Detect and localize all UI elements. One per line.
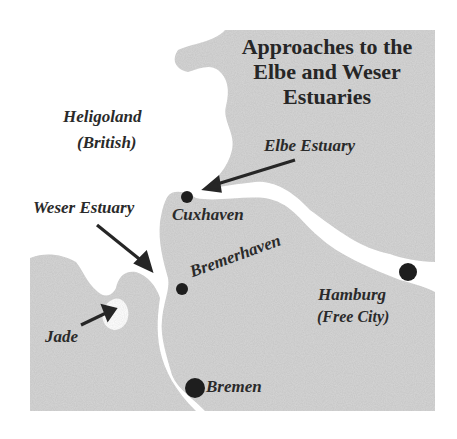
label-hamburg-note: (Free City) [317,308,389,326]
hamburg-dot [399,263,417,281]
label-elbe-estuary: Elbe Estuary [264,136,355,156]
label-hamburg: Hamburg [318,285,386,305]
label-weser-estuary: Weser Estuary [33,198,134,218]
title-line-2: Elbe and Weser [222,59,432,84]
weser-arrowhead [136,253,151,270]
bremen-dot [185,378,205,398]
label-bremen: Bremen [206,377,262,397]
label-cuxhaven: Cuxhaven [172,205,244,225]
elbe-arrowhead [205,178,220,191]
weser-arrow [97,225,143,262]
map-title: Approaches to the Elbe and Weser Estuari… [222,34,432,109]
cuxhaven-dot [181,191,193,203]
label-heligoland-note: (British) [77,133,137,153]
bremerhaven-dot [176,283,188,295]
title-line-1: Approaches to the [222,34,432,59]
title-line-3: Estuaries [222,84,432,109]
label-jade: Jade [45,327,78,347]
label-heligoland: Heligoland [63,107,141,127]
